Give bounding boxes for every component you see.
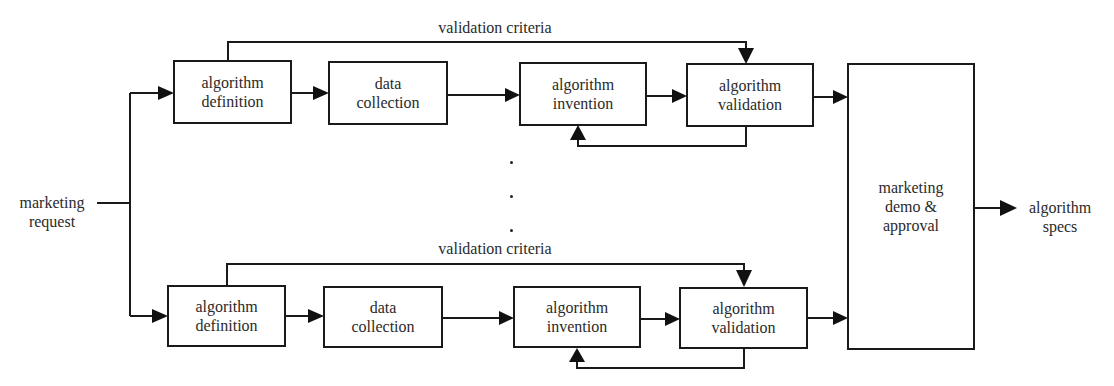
input-label-line1: marketing [12,193,92,212]
step-line1: algorithm [514,298,640,317]
input-connector [97,86,174,323]
input-label-line2: request [12,212,92,231]
step-line2: definition [174,92,291,111]
row2-algorithm-invention-label: algorithm invention [514,298,640,336]
row2-algorithm-definition-label: algorithm definition [168,297,285,335]
input-label-marketing-request: marketing request [12,193,92,231]
output-line1: algorithm [1020,198,1100,217]
step-line2: invention [514,317,640,336]
row2-data-collection-label: data collection [324,298,442,336]
step-line2: collection [329,93,447,112]
step-line1: algorithm [174,73,291,92]
step-line1: algorithm [680,299,807,318]
row2-algorithm-validation-label: algorithm validation [680,299,807,337]
step-line1: algorithm [520,75,646,94]
row1-algorithm-invention-label: algorithm invention [520,75,646,113]
step-line2: collection [324,317,442,336]
step-line1: algorithm [687,76,813,95]
ellipsis-dot [510,195,513,198]
output-line2: specs [1020,217,1100,236]
step-line2: validation [680,318,807,337]
step-line1: data [329,74,447,93]
row1-data-collection-label: data collection [329,74,447,112]
row2-validation-criteria-label: validation criteria [405,239,585,258]
ellipsis-dot [510,229,513,232]
step-line2: definition [168,316,285,335]
row1-algorithm-validation-label: algorithm validation [687,76,813,114]
step-line2: validation [687,95,813,114]
step-line2: invention [520,94,646,113]
ellipsis-dot [510,161,513,164]
approval-line2: demo & [848,197,974,216]
approval-line3: approval [848,216,974,235]
step-line1: algorithm [168,297,285,316]
output-label-algorithm-specs: algorithm specs [1020,198,1100,236]
row1-validation-criteria-label: validation criteria [405,18,585,37]
approval-line1: marketing [848,178,974,197]
step-line1: data [324,298,442,317]
row1-algorithm-definition-label: algorithm definition [174,73,291,111]
marketing-demo-approval-label: marketing demo & approval [848,178,974,235]
